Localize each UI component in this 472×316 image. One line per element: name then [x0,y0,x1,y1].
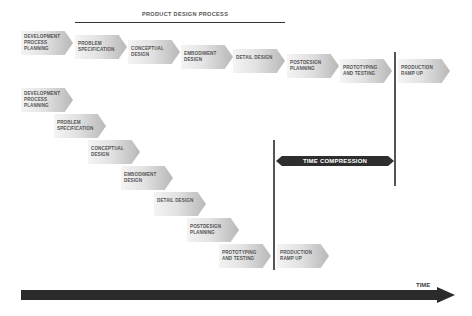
seq-step-development-process-planning: DEVELOPMENT PROCESS PLANNING [21,31,73,55]
concurrent-end-marker [273,140,275,270]
time-axis-arrowhead [437,287,455,303]
seq-step-problem-specification: PROBLEM SPECIFICATION [75,35,127,59]
time-compression-arrow: TIME COMPRESSION [276,156,394,166]
con-step-problem-specification: PROBLEM SPECIFICATION [54,114,106,138]
sequential-end-marker [394,52,396,186]
con-step-conceptual-design: CONCEPTUAL DESIGN [88,140,140,164]
con-step-development-process-planning: DEVELOPMENT PROCESS PLANNING [21,88,73,112]
con-step-postdesign-planning: POSTDESIGN PLANNING [187,218,239,242]
seq-step-detail-design: DETAIL DESIGN [233,49,285,73]
con-step-production-ramp-up: PRODUCTION RAMP UP [277,244,329,268]
con-step-embodiment-design: EMBODIMENT DESIGN [121,166,173,190]
seq-step-postdesign-planning: POSTDESIGN PLANNING [287,54,339,78]
time-axis-arrow-icon [21,287,455,303]
con-step-detail-design: DETAIL DESIGN [154,192,206,216]
seq-step-conceptual-design: CONCEPTUAL DESIGN [128,40,180,64]
chevron-arrow-icon [154,192,206,216]
diagram-title: PRODUCT DESIGN PROCESS [142,11,228,17]
con-step-prototyping-and-testing: PROTOTYPING AND TESTING [219,244,271,268]
seq-step-prototyping-and-testing: PROTOTYPING AND TESTING [340,59,392,83]
time-axis-shaft [21,290,439,300]
seq-step-production-ramp-up: PRODUCTION RAMP UP [398,59,450,83]
process-span-line [75,22,285,23]
time-compression-label: TIME COMPRESSION [276,158,394,164]
seq-step-embodiment-design: EMBODIMENT DESIGN [181,45,233,69]
chevron-arrow-icon [233,49,285,73]
